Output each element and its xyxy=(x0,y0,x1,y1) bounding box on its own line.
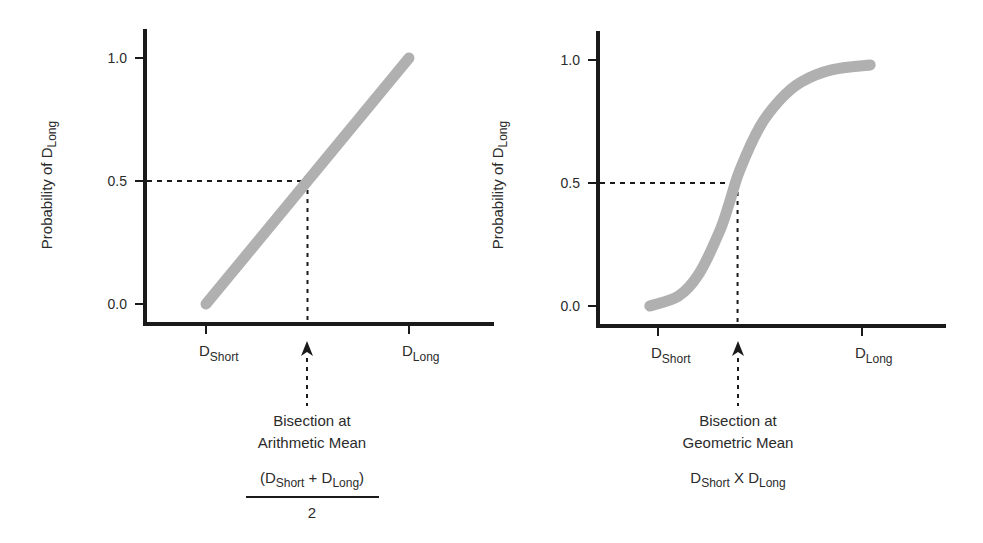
left-x-category-label: DLong xyxy=(402,342,440,364)
left-formula-numerator: (DShort + DLong) xyxy=(260,469,364,490)
left-x-category-label: DShort xyxy=(199,342,239,364)
left-formula-denominator: 2 xyxy=(308,504,316,521)
arrow-up-icon xyxy=(301,341,313,356)
right-panel: Probability of DLong 0.00.51.0 DShortDLo… xyxy=(489,31,946,490)
right-y-tick-label: 1.0 xyxy=(561,52,581,68)
right-annotation-line1: Bisection at xyxy=(699,412,777,429)
figure: Probability of DLong 0.00.51.0 DShortDLo… xyxy=(0,0,983,543)
arrow-up-icon xyxy=(732,341,744,356)
left-y-tick-label: 0.5 xyxy=(108,173,128,189)
right-y-tick-label: 0.5 xyxy=(561,175,581,191)
left-y-tick-label: 0.0 xyxy=(108,296,128,312)
left-y-tick-label: 1.0 xyxy=(108,50,128,66)
left-annotation-line2: Arithmetic Mean xyxy=(258,434,366,451)
left-y-axis-label: Probability of DLong xyxy=(38,121,59,249)
left-probability-curve xyxy=(206,58,409,304)
right-annotation-line2: Geometric Mean xyxy=(683,434,794,451)
right-formula: DShort X DLong xyxy=(690,469,785,490)
right-y-axis-label: Probability of DLong xyxy=(489,121,510,249)
left-bisection-arrow xyxy=(301,341,313,406)
right-y-tick-label: 0.0 xyxy=(561,298,581,314)
right-x-category-label: DShort xyxy=(651,344,691,366)
left-annotation-line1: Bisection at xyxy=(273,412,351,429)
right-x-category-label: DLong xyxy=(855,344,893,366)
right-bisection-arrow xyxy=(732,341,744,406)
left-panel: Probability of DLong 0.00.51.0 DShortDLo… xyxy=(38,29,494,521)
right-probability-curve xyxy=(650,65,870,306)
